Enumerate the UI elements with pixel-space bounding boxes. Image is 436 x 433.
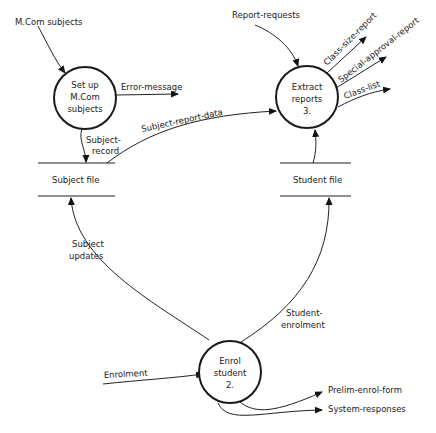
dfd-canvas: Subject file Student file Set up M.Com s… [0, 0, 436, 433]
flow-student-file-to-p3 [313, 130, 316, 163]
label-system-responses: System-responses [328, 404, 406, 414]
label-mcom-subjects: M.Com subjects [15, 17, 83, 27]
flow-error-message [116, 94, 178, 95]
label-class-list: Class-list [342, 78, 382, 101]
flow-subject-record [81, 129, 86, 162]
label-student-enrolment: Student- [286, 308, 323, 318]
label-subject-record-2: record [92, 146, 119, 156]
flow-mcom-subjects [38, 26, 65, 73]
store-label: Subject file [52, 175, 99, 185]
label-enrolment: Enrolment [104, 368, 149, 380]
process-label: M.Com [70, 92, 99, 102]
process-label: subjects [67, 104, 103, 114]
process-label: 3. [303, 106, 311, 116]
label-student-enrolment-2: enrolment [281, 320, 325, 330]
label-error-message: Error-message [121, 82, 182, 92]
label-special-approval-report: Special-approval-report [336, 15, 421, 85]
store-label: Student file [293, 175, 342, 185]
process-enrol-student: Enrol student 2. [199, 341, 261, 403]
label-subject-updates-2: updates [69, 251, 104, 261]
data-store-subject-file: Subject file [38, 163, 115, 196]
data-store-student-file: Student file [280, 163, 351, 196]
label-subject-updates: Subject [72, 239, 104, 249]
process-label: Enrol [219, 356, 241, 366]
process-extract-reports: Extract reports 3. [276, 66, 338, 128]
process-label: Extract [292, 82, 323, 92]
process-label: reports [292, 94, 323, 104]
flow-subject-updates [71, 198, 209, 340]
process-label: Set up [71, 80, 98, 90]
label-prelim-enrol-form: Prelim-enrol-form [328, 385, 402, 395]
process-set-up-mcom-subjects: Set up M.Com subjects [54, 67, 116, 129]
process-label: student [214, 368, 247, 378]
label-subject-report-data: Subject-report-data [140, 107, 223, 134]
process-label: 2. [226, 380, 234, 390]
label-report-requests: Report-requests [232, 10, 301, 20]
flow-report-requests [255, 25, 298, 66]
label-subject-record: Subject- [86, 135, 121, 145]
